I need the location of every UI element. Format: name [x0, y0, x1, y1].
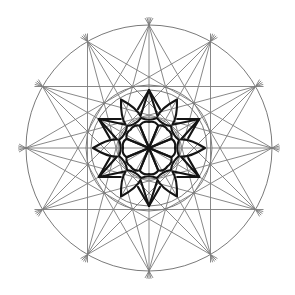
geometric-star-diagram: [0, 0, 295, 295]
